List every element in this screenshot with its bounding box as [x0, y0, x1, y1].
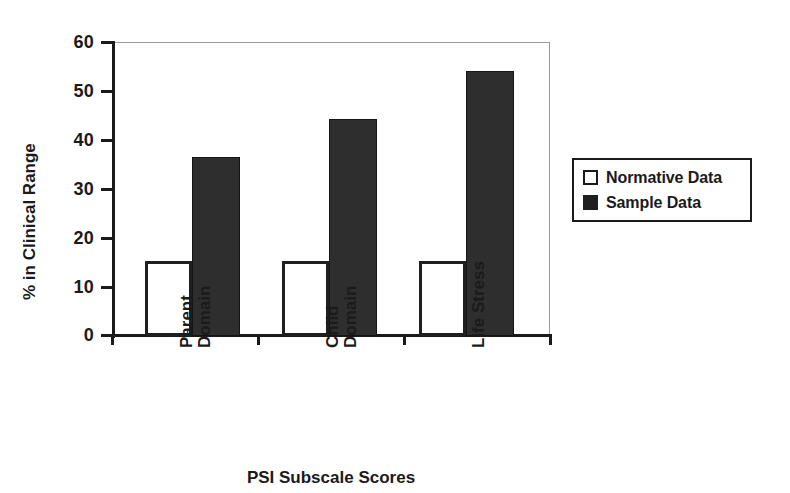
chart-legend: Normative Data Sample Data	[572, 158, 752, 222]
legend-label-normative: Normative Data	[606, 169, 722, 187]
x-tick-3	[549, 336, 552, 345]
y-tick-label-50: 50	[34, 82, 94, 100]
x-tick-0	[111, 336, 114, 345]
y-axis-title: % in Clinical Range	[20, 40, 40, 300]
x-category-label-life-stress: Life Stress	[470, 198, 488, 348]
filled-square-icon	[583, 195, 598, 210]
x-tick-1	[257, 336, 260, 345]
y-tick-label-40: 40	[34, 131, 94, 149]
y-tick-label-10: 10	[34, 278, 94, 296]
bar-normative-child-domain	[282, 261, 329, 336]
bar-normative-life-stress	[419, 261, 466, 336]
y-tick-label-60: 60	[34, 33, 94, 51]
y-tick-label-20: 20	[34, 229, 94, 247]
bar-chart-figure: 60 50 40 30 20 10 0 Parent Domain Child …	[0, 0, 790, 493]
hollow-square-icon	[583, 170, 598, 185]
y-tick-label-30: 30	[34, 180, 94, 198]
x-axis-title: PSI Subscale Scores	[112, 468, 550, 488]
legend-entry-sample: Sample Data	[583, 191, 742, 215]
y-tick-label-0: 0	[34, 326, 94, 344]
legend-entry-normative: Normative Data	[583, 166, 742, 190]
legend-label-sample: Sample Data	[606, 194, 701, 212]
x-category-label-parent-domain: Parent Domain	[178, 198, 215, 348]
x-tick-2	[403, 336, 406, 345]
x-category-label-child-domain: Child Domain	[324, 198, 361, 348]
